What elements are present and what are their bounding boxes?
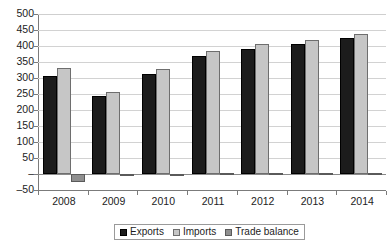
bar-exports <box>291 44 305 174</box>
y-axis-tick-label: 200 <box>16 104 34 115</box>
y-axis-tick <box>34 78 38 79</box>
y-axis-tick <box>34 158 38 159</box>
y-axis-tick <box>34 142 38 143</box>
bar-group <box>89 14 139 190</box>
y-axis-tick-label: 300 <box>16 72 34 83</box>
bar-chart: –50–50100150200250300350400450500 200820… <box>0 0 389 246</box>
bar-group <box>39 14 89 190</box>
plot-area <box>38 14 386 190</box>
bar-trade-balance <box>120 174 134 176</box>
x-axis-tick-labels: 2008200920102011201220132014 <box>39 195 387 207</box>
legend-swatch-icon <box>173 229 180 236</box>
chart-legend: ExportsImportsTrade balance <box>114 224 305 240</box>
y-axis-tick-labels: –50–50100150200250300350400450500 <box>0 14 36 190</box>
y-axis-tick-label: 50 <box>22 152 34 163</box>
bar-imports <box>305 40 319 174</box>
bar-imports <box>57 68 71 174</box>
bar-group <box>287 14 337 190</box>
bar-trade-balance <box>368 173 382 175</box>
bar-imports <box>255 44 269 174</box>
bar-trade-balance <box>319 173 333 175</box>
bar-group <box>138 14 188 190</box>
x-axis-tick-label: 2009 <box>89 195 139 207</box>
bar-imports <box>206 51 220 174</box>
legend-swatch-icon <box>120 229 127 236</box>
legend-swatch-icon <box>225 229 232 236</box>
legend-item-trade-balance[interactable]: Trade balance <box>225 227 299 237</box>
y-axis-tick-label: 450 <box>16 24 34 35</box>
legend-label: Imports <box>183 227 216 237</box>
legend-item-exports[interactable]: Exports <box>120 227 164 237</box>
bar-exports <box>142 74 156 174</box>
x-axis-tick-label: 2013 <box>288 195 338 207</box>
bar-exports <box>43 76 57 174</box>
bar-imports <box>354 34 368 174</box>
x-axis-tick-label: 2011 <box>188 195 238 207</box>
y-axis-tick <box>34 62 38 63</box>
y-axis-tick <box>34 174 38 175</box>
bar-group <box>237 14 287 190</box>
x-axis-tick-label: 2010 <box>138 195 188 207</box>
bar-group <box>336 14 386 190</box>
y-axis-tick <box>34 46 38 47</box>
bar-group <box>188 14 238 190</box>
bar-trade-balance <box>170 174 184 176</box>
x-axis-tick-label: 2008 <box>39 195 89 207</box>
y-axis-tick-label: 100 <box>16 136 34 147</box>
x-axis-tick-label: 2012 <box>238 195 288 207</box>
y-axis-tick-label: –50 <box>16 184 34 195</box>
bar-exports <box>340 38 354 174</box>
x-axis-tick-label: 2014 <box>337 195 387 207</box>
y-axis-tick <box>34 14 38 15</box>
y-axis-tick <box>34 30 38 31</box>
bar-trade-balance <box>269 173 283 175</box>
x-axis-line <box>38 190 386 191</box>
bar-trade-balance <box>220 173 234 175</box>
y-axis-tick-label: 400 <box>16 40 34 51</box>
y-axis-tick-label: 250 <box>16 88 34 99</box>
bar-imports <box>106 92 120 174</box>
bar-groups <box>39 14 386 190</box>
bar-exports <box>241 49 255 174</box>
bar-trade-balance <box>71 174 85 182</box>
bar-imports <box>156 69 170 174</box>
legend-label: Trade balance <box>235 227 299 237</box>
bar-exports <box>92 96 106 174</box>
y-axis-tick <box>34 94 38 95</box>
bar-exports <box>192 56 206 174</box>
y-axis-tick <box>34 126 38 127</box>
y-axis-tick-label: 350 <box>16 56 34 67</box>
y-axis-tick-label: 500 <box>16 8 34 19</box>
legend-label: Exports <box>130 227 164 237</box>
y-axis-tick-label: 150 <box>16 120 34 131</box>
y-axis-tick <box>34 110 38 111</box>
legend-item-imports[interactable]: Imports <box>173 227 216 237</box>
